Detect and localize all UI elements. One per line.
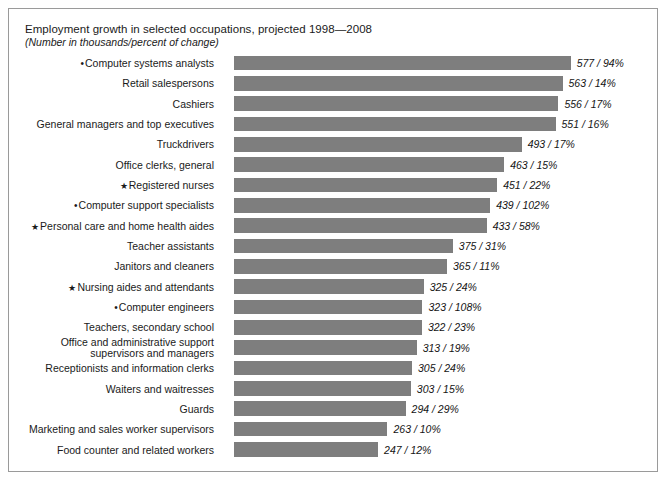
bar-category-label-text: Nursing aides and attendants (77, 281, 214, 293)
bar-category-label-text: Office clerks, general (116, 159, 214, 171)
bar (234, 279, 424, 294)
chart-figure: Employment growth in selected occupation… (8, 8, 658, 472)
bar-category-label: Personal care and home health aides (0, 216, 214, 236)
bar-track: 313 / 19% (234, 338, 657, 358)
bar-value-label: 325 / 24% (424, 277, 477, 297)
bar (234, 422, 387, 437)
bar-value-label: 375 / 31% (453, 236, 506, 256)
bar-track: 439 / 102% (234, 195, 657, 215)
bar-category-label-text: Teachers, secondary school (84, 321, 214, 333)
bar-value-label: 305 / 24% (412, 358, 465, 378)
bar-track: 551 / 16% (234, 114, 657, 134)
bar-category-label-text: Guards (180, 403, 214, 415)
bar-category-label: Computer systems analysts (0, 53, 214, 73)
title-block: Employment growth in selected occupation… (25, 22, 625, 49)
bar-category-label-text: Janitors and cleaners (114, 260, 214, 272)
star-marker-icon (31, 221, 40, 232)
bar-category-label: Computer engineers (0, 297, 214, 317)
chart-row: Receptionists and information clerks305 … (9, 358, 657, 378)
chart-row: Computer engineers323 / 108% (9, 297, 657, 317)
bar (234, 259, 447, 274)
bar-category-label-text: Computer systems analysts (85, 57, 214, 69)
bar (234, 381, 411, 396)
bar-category-label: Retail salespersons (0, 73, 214, 93)
bar-category-label: Teachers, secondary school (0, 317, 214, 337)
bar (234, 56, 571, 71)
bar (234, 76, 563, 91)
bar-value-label: 303 / 15% (411, 379, 464, 399)
bar-value-label: 294 / 29% (406, 399, 459, 419)
bar-category-label: Office and administrative supportsupervi… (0, 337, 214, 360)
bar (234, 117, 556, 132)
bar-category-label: Marketing and sales worker supervisors (0, 419, 214, 439)
bar-category-label-text: Cashiers (173, 98, 214, 110)
bar-category-label: Office clerks, general (0, 155, 214, 175)
bar-track: 294 / 29% (234, 399, 657, 419)
chart-row: Retail salespersons563 / 14% (9, 73, 657, 93)
bar (234, 320, 422, 335)
bar (234, 218, 487, 233)
bar-track: 303 / 15% (234, 379, 657, 399)
bar-category-label: Nursing aides and attendants (0, 277, 214, 297)
chart-row: General managers and top executives551 /… (9, 114, 657, 134)
bar-category-label: Janitors and cleaners (0, 256, 214, 276)
bar-track: 305 / 24% (234, 358, 657, 378)
page-title: Employment growth in selected occupation… (25, 22, 625, 36)
bar-category-label-text: Teacher assistants (127, 240, 214, 252)
bar (234, 198, 490, 213)
bar-value-label: 322 / 23% (422, 317, 475, 337)
chart-row: Marketing and sales worker supervisors26… (9, 419, 657, 439)
chart-row: Food counter and related workers247 / 12… (9, 440, 657, 460)
bar-category-label: General managers and top executives (0, 114, 214, 134)
bar-track: 433 / 58% (234, 216, 657, 236)
bar-value-label: 263 / 10% (387, 419, 440, 439)
bar-value-label: 451 / 22% (497, 175, 550, 195)
bar-value-label: 463 / 15% (504, 155, 557, 175)
bar (234, 137, 522, 152)
bar-category-label-text: Truckdrivers (157, 138, 214, 150)
chart-row: Teachers, secondary school322 / 23% (9, 317, 657, 337)
bar-value-label: 439 / 102% (490, 195, 549, 215)
bar-category-label-text: Retail salespersons (122, 77, 214, 89)
bar (234, 157, 504, 172)
bar-track: 493 / 17% (234, 134, 657, 154)
bar (234, 96, 558, 111)
chart-row: Computer support specialists439 / 102% (9, 195, 657, 215)
bar-category-label: Cashiers (0, 94, 214, 114)
bar (234, 442, 378, 457)
bar-track: 556 / 17% (234, 94, 657, 114)
bar-category-label-text: Waiters and waitresses (106, 383, 214, 395)
bar-track: 247 / 12% (234, 440, 657, 460)
bar-track: 365 / 11% (234, 256, 657, 276)
chart-row: Guards294 / 29% (9, 399, 657, 419)
bar-value-label: 577 / 94% (571, 53, 624, 73)
chart-row: Registered nurses451 / 22% (9, 175, 657, 195)
chart-row: Waiters and waitresses303 / 15% (9, 379, 657, 399)
bar-track: 563 / 14% (234, 73, 657, 93)
chart-row: Computer systems analysts577 / 94% (9, 53, 657, 73)
bar-category-label: Computer support specialists (0, 195, 214, 215)
bar-category-label-text: Registered nurses (129, 179, 214, 191)
chart-row: Nursing aides and attendants325 / 24% (9, 277, 657, 297)
bar (234, 239, 453, 254)
bar-category-label-text: Food counter and related workers (57, 444, 214, 456)
bar-category-label-text: Computer engineers (119, 301, 214, 313)
bar-value-label: 556 / 17% (558, 94, 611, 114)
chart-row: Office clerks, general463 / 15% (9, 155, 657, 175)
bar-category-label-text: Personal care and home health aides (40, 220, 214, 232)
bar (234, 178, 497, 193)
bar-value-label: 247 / 12% (378, 440, 431, 460)
bar-chart-plot-area: Computer systems analysts577 / 94%Retail… (9, 53, 657, 471)
bar-track: 322 / 23% (234, 317, 657, 337)
bar-track: 263 / 10% (234, 419, 657, 439)
bar (234, 340, 417, 355)
bar-track: 375 / 31% (234, 236, 657, 256)
bar-category-label-text: General managers and top executives (37, 118, 214, 130)
bar-category-label: Waiters and waitresses (0, 379, 214, 399)
bar-category-label-text: Computer support specialists (79, 199, 214, 211)
bar-track: 463 / 15% (234, 155, 657, 175)
bar-track: 451 / 22% (234, 175, 657, 195)
bar-value-label: 551 / 16% (556, 114, 609, 134)
bar-category-label-text: Office and administrative support (61, 336, 214, 348)
bar-track: 323 / 108% (234, 297, 657, 317)
